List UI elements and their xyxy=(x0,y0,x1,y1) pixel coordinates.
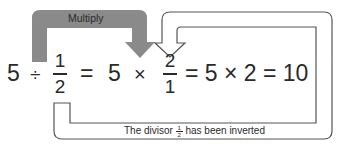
inverted-label-fraction: 1 2 xyxy=(176,126,183,137)
multiplication-sign: × xyxy=(134,64,146,84)
lhs-numerator: 1 xyxy=(52,51,68,70)
mid-whole: 5 xyxy=(108,62,121,85)
inverted-label-post: has been inverted xyxy=(185,125,265,136)
lhs-denominator: 2 xyxy=(52,77,68,96)
equals-sign-1: = xyxy=(80,62,93,85)
lhs-fraction-bar xyxy=(53,73,67,75)
multiply-label: Multiply xyxy=(68,12,104,24)
mid-numerator: 2 xyxy=(162,51,178,70)
mid-fraction-bar xyxy=(163,73,177,75)
mid-denominator: 1 xyxy=(162,77,178,96)
inverted-fraction-den: 2 xyxy=(176,131,183,138)
equation-tail: = 5 × 2 = 10 xyxy=(185,62,308,85)
lhs-whole: 5 xyxy=(7,62,20,85)
inverted-label-pre: The divisor xyxy=(124,125,173,136)
division-sign: ÷ xyxy=(30,65,40,84)
inverted-label: The divisor 1 2 has been inverted xyxy=(124,125,265,137)
